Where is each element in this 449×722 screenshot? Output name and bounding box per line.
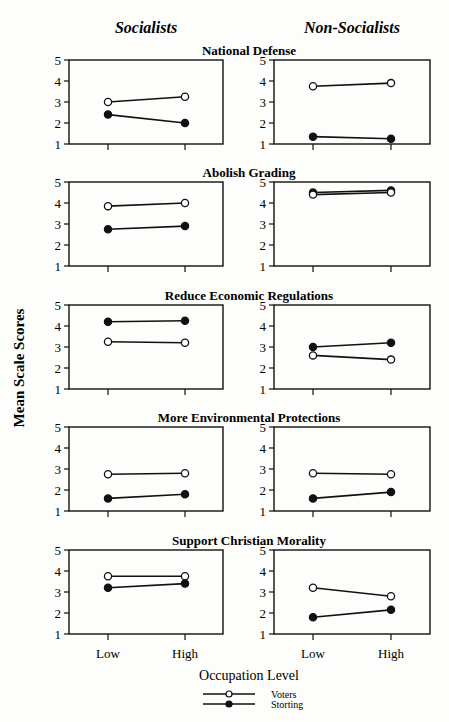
- voters-marker: [181, 339, 188, 346]
- storting-marker: [387, 489, 394, 496]
- y-tick-label: 3: [55, 462, 62, 477]
- storting-marker: [387, 606, 394, 613]
- x-tick-label: High: [172, 646, 199, 661]
- y-tick-label: 5: [55, 175, 62, 190]
- storting-marker: [387, 135, 394, 142]
- y-tick-label: 5: [55, 420, 62, 435]
- y-tick-label: 2: [260, 238, 267, 253]
- y-tick-label: 4: [55, 441, 62, 456]
- y-tick-label: 2: [260, 116, 267, 131]
- y-tick-label: 5: [55, 298, 62, 313]
- storting-marker: [309, 343, 316, 350]
- voters-marker: [309, 470, 316, 477]
- y-tick-label: 5: [260, 53, 267, 68]
- panel-title: More Environmental Protections: [158, 410, 341, 425]
- storting-marker: [387, 339, 394, 346]
- y-tick-label: 2: [55, 361, 62, 376]
- voters-marker: [309, 352, 316, 359]
- storting-marker: [181, 223, 188, 230]
- panel-title: Reduce Economic Regulations: [165, 288, 333, 303]
- y-tick-label: 4: [260, 441, 267, 456]
- storting-marker: [181, 317, 188, 324]
- storting-marker: [181, 491, 188, 498]
- y-tick-label: 2: [55, 116, 62, 131]
- chart: Socialists Non-Socialists Mean Scale Sco…: [0, 0, 449, 722]
- y-tick-label: 1: [55, 259, 62, 274]
- column-title-socialists: Socialists: [115, 19, 177, 36]
- storting-marker: [309, 133, 316, 140]
- voters-marker: [181, 573, 188, 580]
- y-axis-label: Mean Scale Scores: [11, 308, 27, 427]
- storting-marker: [104, 111, 111, 118]
- panel-socialists: 12345: [55, 420, 224, 519]
- panel-non-socialists: 12345: [260, 53, 431, 152]
- y-tick-label: 2: [260, 606, 267, 621]
- y-tick-label: 4: [55, 196, 62, 211]
- panel-title: National Defense: [202, 43, 296, 58]
- y-tick-label: 3: [55, 585, 62, 600]
- voters-marker: [309, 584, 316, 591]
- y-tick-label: 1: [260, 259, 267, 274]
- y-tick-label: 4: [260, 319, 267, 334]
- y-tick-label: 1: [55, 627, 62, 642]
- storting-marker: [104, 226, 111, 233]
- y-tick-label: 5: [260, 543, 267, 558]
- legend: VotersStorting: [203, 689, 303, 710]
- column-title-non-socialists: Non-Socialists: [303, 19, 400, 36]
- y-tick-label: 3: [260, 462, 267, 477]
- panel-socialists: 12345LowHigh: [55, 543, 224, 662]
- storting-marker: [104, 495, 111, 502]
- storting-marker: [104, 584, 111, 591]
- voters-marker: [104, 573, 111, 580]
- panel-non-socialists: 12345: [260, 298, 431, 397]
- y-tick-label: 2: [55, 238, 62, 253]
- voters-marker: [181, 93, 188, 100]
- voters-marker: [387, 189, 394, 196]
- voters-marker: [309, 191, 316, 198]
- y-tick-label: 3: [260, 585, 267, 600]
- storting-marker: [309, 495, 316, 502]
- panel-socialists: 12345: [55, 298, 224, 397]
- y-tick-label: 4: [55, 319, 62, 334]
- voters-marker: [387, 471, 394, 478]
- x-tick-label: Low: [301, 646, 325, 661]
- y-tick-label: 1: [260, 627, 267, 642]
- y-tick-label: 1: [55, 504, 62, 519]
- panel-socialists: 12345: [55, 175, 224, 274]
- panel-socialists: 12345: [55, 53, 224, 152]
- y-tick-label: 4: [260, 564, 267, 579]
- legend-marker-icon: [226, 691, 232, 697]
- y-tick-label: 3: [260, 217, 267, 232]
- y-tick-label: 4: [55, 74, 62, 89]
- voters-marker: [387, 593, 394, 600]
- y-tick-label: 5: [260, 175, 267, 190]
- voters-marker: [181, 199, 188, 206]
- voters-marker: [387, 356, 394, 363]
- storting-marker: [181, 580, 188, 587]
- voters-marker: [104, 338, 111, 345]
- y-tick-label: 1: [260, 504, 267, 519]
- y-tick-label: 2: [55, 606, 62, 621]
- y-tick-label: 4: [260, 196, 267, 211]
- y-tick-label: 3: [260, 95, 267, 110]
- panel-non-socialists: 12345LowHigh: [260, 543, 431, 662]
- y-tick-label: 3: [55, 340, 62, 355]
- storting-marker: [104, 318, 111, 325]
- y-tick-label: 1: [55, 137, 62, 152]
- y-tick-label: 2: [55, 483, 62, 498]
- y-tick-label: 3: [55, 95, 62, 110]
- y-tick-label: 3: [260, 340, 267, 355]
- legend-marker-icon: [226, 701, 232, 707]
- panel-title: Support Christian Morality: [172, 533, 326, 548]
- voters-marker: [309, 83, 316, 90]
- voters-marker: [181, 470, 188, 477]
- y-tick-label: 4: [55, 564, 62, 579]
- voters-marker: [104, 203, 111, 210]
- y-tick-label: 5: [55, 543, 62, 558]
- voters-marker: [387, 80, 394, 87]
- y-tick-label: 1: [55, 382, 62, 397]
- voters-marker: [104, 471, 111, 478]
- storting-marker: [309, 614, 316, 621]
- storting-marker: [181, 119, 188, 126]
- y-tick-label: 4: [260, 74, 267, 89]
